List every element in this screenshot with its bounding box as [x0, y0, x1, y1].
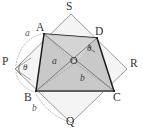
side-label-b-outer: b — [32, 104, 37, 114]
geometry-figure: S A D P R B C Q a a b b θ θ O — [0, 0, 143, 134]
side-label-b-inner: b — [80, 74, 85, 84]
vertex-dot-b — [35, 90, 37, 92]
center-point-label-o: O — [70, 56, 78, 67]
side-label-a-inner: a — [52, 57, 57, 67]
vertex-label-d: D — [95, 26, 103, 38]
vertex-label-p: P — [2, 56, 8, 68]
vertex-label-r: R — [130, 58, 138, 70]
geometry-canvas — [0, 0, 143, 134]
angle-label-theta-d: θ — [87, 44, 91, 53]
angle-label-theta-p: θ — [23, 63, 27, 72]
vertex-label-b: B — [24, 92, 32, 104]
vertex-label-s: S — [66, 1, 72, 13]
vertex-label-q: Q — [66, 116, 74, 128]
vertex-label-a: A — [36, 22, 44, 34]
vertex-label-c: C — [113, 92, 121, 104]
side-label-a-outer: a — [25, 29, 30, 39]
